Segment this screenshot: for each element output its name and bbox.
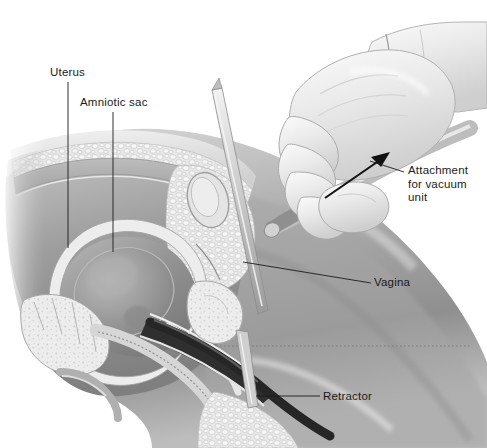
label-amniotic-sac: Amniotic sac [80,96,148,110]
label-uterus: Uterus [50,66,85,80]
label-retractor: Retractor [323,390,372,404]
label-attachment-for-vacuum-unit: Attachment for vacuum unit [408,164,468,205]
thumb [319,182,389,233]
illustration-canvas: Uterus Amniotic sac Attachment for vacuu… [0,0,487,448]
label-vagina: Vagina [374,276,410,290]
